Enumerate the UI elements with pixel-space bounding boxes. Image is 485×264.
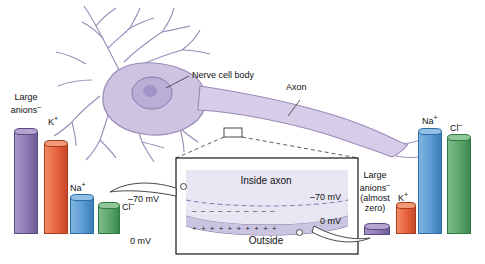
na-right-superscript: + xyxy=(434,114,438,121)
callout-lines xyxy=(176,137,358,158)
bar-chloride-left xyxy=(98,206,120,234)
label-sodium-right: Na+ xyxy=(422,113,438,126)
voltage-inside-outer: –70 mV xyxy=(128,194,159,204)
label-sodium-left: Na+ xyxy=(70,180,86,193)
electrode-dot-inside xyxy=(180,183,187,190)
k-right-superscript: + xyxy=(404,191,408,198)
label-outside: Outside xyxy=(216,236,316,246)
k-left-superscript: + xyxy=(54,115,58,122)
bar-large-anions-right-top xyxy=(364,223,390,230)
voltage-outside-inner: 0 mV xyxy=(320,216,341,226)
axon xyxy=(198,86,408,157)
na-left-superscript: + xyxy=(82,181,86,188)
label-axon: Axon xyxy=(286,82,307,92)
axon-sample-region xyxy=(224,128,242,137)
neuron-membrane-potential-figure: Large anions– K+ Na+ Cl– Na+ Cl– K+ Larg… xyxy=(0,0,485,264)
electrode-dot-outside xyxy=(296,229,303,236)
bar-potassium-left-top xyxy=(44,140,68,147)
label-nerve-cell-body: Nerve cell body xyxy=(192,70,254,80)
label-potassium-left: K+ xyxy=(48,114,58,127)
voltage-outside-outer: 0 mV xyxy=(130,236,151,246)
label-chloride-right: Cl– xyxy=(450,120,462,133)
bar-chloride-right-top xyxy=(447,134,471,141)
label-large-anions-left: Large anions– xyxy=(4,92,48,115)
large-anions-left-superscript: – xyxy=(37,103,41,110)
bar-potassium-left xyxy=(44,144,68,234)
bar-chloride-right xyxy=(447,138,471,234)
charge-row-inside: – – – – – – – – – – xyxy=(192,206,276,216)
nucleolus xyxy=(143,85,157,97)
bar-large-anions-left-top xyxy=(14,128,38,135)
label-large-anions-right: Large anions– (almost zero) xyxy=(350,170,400,213)
label-inside-axon: Inside axon xyxy=(216,176,316,186)
large-anions-right-superscript: – xyxy=(386,181,390,188)
bar-sodium-right-top xyxy=(418,128,442,135)
cl-right-superscript: – xyxy=(459,121,463,128)
bar-large-anions-left xyxy=(14,132,38,234)
bar-sodium-left xyxy=(70,198,94,234)
bar-chloride-left-top xyxy=(98,202,120,209)
bar-sodium-right xyxy=(418,132,442,234)
bar-sodium-left-top xyxy=(70,194,94,201)
charge-row-outside: + + + + + + + + + + xyxy=(192,224,278,234)
voltage-inside-inner: –70 mV xyxy=(310,192,341,202)
